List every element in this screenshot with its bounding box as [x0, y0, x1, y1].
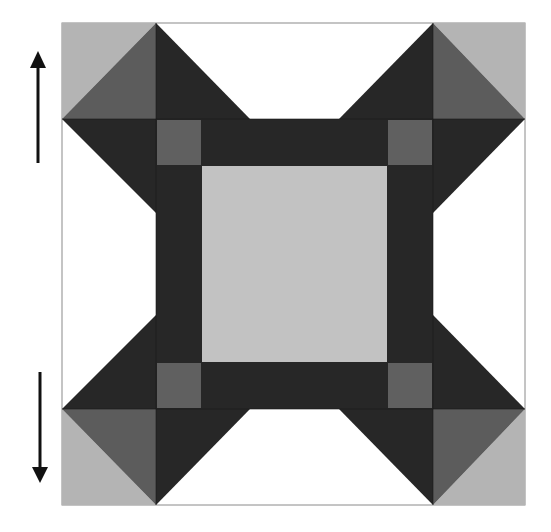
- quilt-block-diagram: [0, 0, 551, 532]
- down-arrow-icon: [32, 372, 48, 483]
- up-arrow-icon: [30, 51, 46, 163]
- center-square: [202, 166, 387, 362]
